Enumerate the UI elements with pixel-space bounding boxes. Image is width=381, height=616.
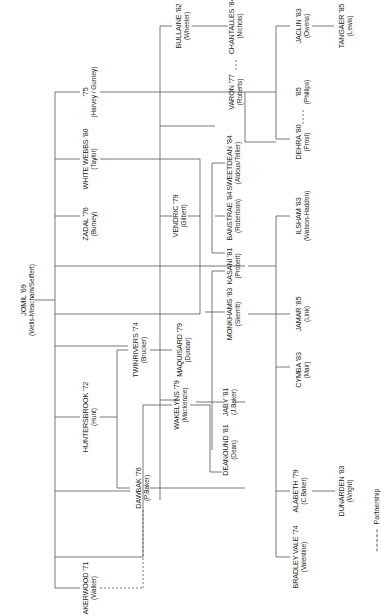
node-name: WAKELYNS '79 [173, 380, 181, 429]
node-owner: (Phillips) [303, 80, 310, 105]
node-name: TWINRIVERS '74 [132, 322, 140, 377]
node-name: KASANI '81 [226, 248, 234, 285]
node-name: DEANOUND '81 [222, 424, 230, 475]
node-name: MONKHAMS '83 [226, 288, 234, 341]
node-name: CHANTALLES '84 [228, 0, 236, 54]
node-name: WHITE WEBBS '80 [82, 129, 90, 190]
node-name: HUNTERSBROOK '72 [82, 382, 90, 452]
tree-node-twinrivers: TWINRIVERS '74 (Brucker) [132, 322, 148, 377]
node-name: JAMAR '85 [295, 297, 303, 332]
node-name: '75 [82, 67, 90, 118]
connector-lines [0, 0, 381, 616]
tree-node-huntersbrook: HUNTERSBROOK '72 (Hunt) [82, 382, 98, 452]
node-name: ILSHAM '83 [295, 191, 303, 241]
node-name: MAQUISARD '79 [176, 323, 184, 377]
node-name: JABY '81 [222, 388, 230, 416]
node-owner: (C.Baker) [300, 469, 307, 512]
node-owner: (Taylor) [90, 129, 97, 190]
tree-node-deanound: DEANOUND '81 (Dean) [222, 424, 238, 475]
node-owner: (Frost) [303, 124, 310, 159]
node-owner: (Lewis) [346, 4, 353, 48]
node-owner: (Burney) [90, 207, 97, 240]
node-owner: (Hunt) [90, 382, 97, 452]
node-owner: (Probert) [234, 248, 241, 285]
node-owner: (J.Baker) [230, 388, 237, 416]
node-name: ALABETH '79 [292, 469, 300, 512]
node-owner: (Wright) [346, 466, 353, 517]
node-owner: (Brucker) [140, 322, 147, 377]
tree-node-monkhams: MONKHAMS '83 (Skerritt) [226, 288, 242, 341]
node-owner: (Owens) [303, 8, 310, 43]
tree-node-white-webbs: WHITE WEBBS '80 (Taylor) [82, 129, 98, 190]
tree-node-alabeth: ALABETH '79 (C.Baker) [292, 469, 308, 512]
tree-node-maquisard: MAQUISARD '79 (Dunbar) [176, 323, 192, 377]
node-name: VENDRIC '79 [172, 195, 180, 238]
tree-node-akerwood: AKERWOOD '71 (Walker) [82, 562, 98, 615]
node-name: JACLIN '83 [295, 8, 303, 43]
tree-node-85-phillips: '85 (Phillips) [295, 80, 311, 105]
tree-node-wakelyns: WAKELYNS '79 (Mackenzie) [173, 380, 189, 429]
tree-node-sweetdean: SWEETDEAN '84 (Aldous/Tellier) [226, 135, 242, 191]
node-owner: (Skerritt) [234, 288, 241, 341]
node-owner: (Robertson) [234, 192, 241, 241]
node-owner: (P.Baker) [143, 467, 150, 508]
node-owner: (Walker) [90, 562, 97, 615]
node-name: BULLAINE '82 [175, 4, 183, 49]
node-name: DAWBAK '76 [135, 467, 143, 508]
node-owner: (Link) [303, 297, 310, 332]
node-owner: (Wells-Meacham/Seiffert) [28, 264, 35, 336]
node-name: DUNARDEN '83 [338, 466, 346, 517]
node-name: CYMBA '83 [295, 352, 303, 388]
tree-node-jaby: JABY '81 (J.Baker) [222, 388, 238, 416]
node-owner: (Watson-Haddon) [303, 191, 310, 241]
tree-node-jamar: JAMAR '85 (Link) [295, 297, 311, 332]
node-name: BRADLEY VALE '74 [292, 525, 300, 588]
node-owner: (Mair) [303, 352, 310, 388]
tree-node-kasani: KASANI '81 (Probert) [226, 248, 242, 285]
family-tree-diagram: JOMIL '69 (Wells-Meacham/Seiffert) '75 (… [0, 0, 381, 616]
node-owner: (Aldous/Tellier) [234, 135, 241, 191]
node-owner: (Gilbert) [180, 195, 187, 238]
tree-node-bradley-vale: BRADLEY VALE '74 (Valentine) [292, 525, 308, 588]
node-owner: (Valentine) [300, 525, 307, 588]
node-name: JOMIL '69 [20, 264, 28, 336]
tree-node-jomil: JOMIL '69 (Wells-Meacham/Seiffert) [20, 264, 36, 336]
node-name: '85 [295, 80, 303, 105]
legend-partnership: Partnership [373, 489, 380, 552]
node-name: SWEETDEAN '84 [226, 135, 234, 191]
node-name: AKERWOOD '71 [82, 562, 90, 615]
tree-node-vendric: VENDRIC '79 (Gilbert) [172, 195, 188, 238]
node-owner: (Wheeler) [183, 4, 190, 49]
tree-node-75: '75 (Harvey / Gurney) [82, 67, 98, 118]
node-name: BANSTRAE '84 [226, 192, 234, 241]
tree-node-dawbak: DAWBAK '76 (P.Baker) [135, 467, 151, 508]
node-owner: (Harvey / Gurney) [90, 67, 97, 118]
node-owner: (Mackenzie) [181, 380, 188, 429]
tree-node-chantalles: CHANTALLES '84 (Nichols) [228, 0, 244, 54]
tree-node-jaclin: JACLIN '83 (Owens) [295, 8, 311, 43]
tree-node-dunarden: DUNARDEN '83 (Wright) [338, 466, 354, 517]
tree-node-cymba: CYMBA '83 (Mair) [295, 352, 311, 388]
tree-node-ilsham: ILSHAM '83 (Watson-Haddon) [295, 191, 311, 241]
node-owner: (Roberts) [236, 74, 243, 110]
tree-node-varon: VARON '77 (Roberts) [228, 74, 244, 110]
tree-node-tangaer: TANGAER '85 (Lewis) [338, 4, 354, 48]
node-name: VARON '77 [228, 74, 236, 110]
node-name: TANGAER '85 [338, 4, 346, 48]
node-owner: (Nichols) [236, 0, 243, 54]
node-name: ZADAL '76 [82, 207, 90, 240]
node-owner: (Dean) [230, 424, 237, 475]
tree-node-dehra: DEHRA '80 (Frost) [295, 124, 311, 159]
legend-label: Partnership [373, 489, 380, 525]
tree-node-bullaine: BULLAINE '82 (Wheeler) [175, 4, 191, 49]
node-owner: (Dunbar) [184, 323, 191, 377]
tree-node-banstrae: BANSTRAE '84 (Robertson) [226, 192, 242, 241]
dashed-line-icon [376, 529, 377, 551]
tree-node-zadal: ZADAL '76 (Burney) [82, 207, 98, 240]
node-name: DEHRA '80 [295, 124, 303, 159]
